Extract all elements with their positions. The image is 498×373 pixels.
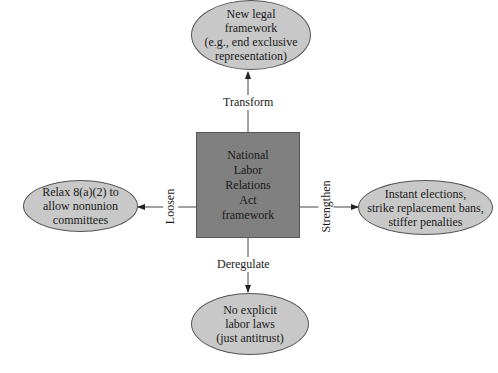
node-line: Instant elections, (385, 187, 466, 201)
edge-label-deregulate: Deregulate (217, 257, 270, 272)
node-line: labor laws (225, 317, 275, 331)
center-line: Labor (234, 163, 263, 178)
center-line: Relations (225, 178, 270, 193)
node-line: New legal (227, 7, 276, 21)
edge-label-loosen: Loosen (163, 189, 178, 224)
center-line: Act (239, 193, 256, 208)
node-line: Relax 8(a)(2) to (42, 185, 119, 199)
node-line: No explicit (223, 303, 277, 317)
node-line: (just antitrust) (216, 331, 284, 345)
edge-label-transform: Transform (223, 95, 273, 110)
node-instant-elections: Instant elections, strike replacement ba… (358, 180, 493, 235)
node-new-legal-framework: New legal framework (e.g., end exclusive… (191, 0, 311, 70)
node-line: allow nonunion (43, 199, 118, 213)
node-line: committees (53, 213, 108, 227)
node-line: representation) (215, 49, 287, 63)
node-relax-8a2: Relax 8(a)(2) to allow nonunion committe… (23, 180, 138, 232)
edge-label-strengthen: Strengthen (319, 181, 334, 233)
node-line: (e.g., end exclusive (205, 35, 298, 49)
center-line: National (227, 148, 268, 163)
node-line: framework (225, 21, 278, 35)
node-line: strike replacement bans, (367, 201, 483, 215)
node-no-explicit-labor-laws: No explicit labor laws (just antitrust) (191, 293, 309, 355)
center-nlra-framework: National Labor Relations Act framework (196, 132, 300, 238)
node-line: stiffer penalties (388, 215, 462, 229)
center-line: framework (222, 208, 275, 223)
